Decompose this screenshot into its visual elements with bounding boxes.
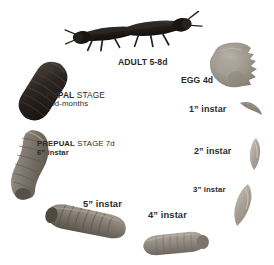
fourth-instar-larva-image <box>137 228 211 260</box>
adult-fly-pair-image <box>58 10 198 58</box>
fourth-instar-label: 4” instar <box>148 210 187 221</box>
first-instar-larva-image <box>238 99 264 117</box>
fifth-instar-label: 5” instar <box>83 199 122 210</box>
first-instar-label: 1” instar <box>189 104 226 114</box>
life-cycle-diagram: ADULT 5-8d EGG 4d 1” instar <box>0 0 274 265</box>
prepupal-larva-image <box>6 126 72 202</box>
prepupal-stage-label: PREPUAL STAGE 7d 6” instar <box>37 140 115 157</box>
egg-stage-label: EGG 4d <box>181 76 213 86</box>
adult-stage-label: ADULT 5-8d <box>118 58 168 68</box>
second-instar-larva-image <box>243 136 265 172</box>
third-instar-label: 3” instar <box>193 186 226 195</box>
fifth-instar-larva-image <box>40 203 130 255</box>
third-instar-larva-image <box>228 182 256 228</box>
second-instar-label: 2” instar <box>194 146 231 156</box>
pupal-stage-label: PUPAL STAGE 10d-months <box>46 91 105 109</box>
